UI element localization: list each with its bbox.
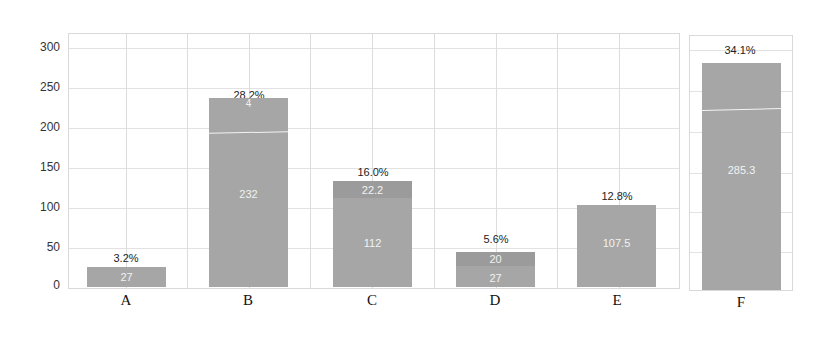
value-label-E: 107.5 <box>577 237 656 249</box>
y-tick-200: 200 <box>20 120 60 134</box>
vgrid-D <box>496 34 497 288</box>
gridline-250 <box>69 88 679 89</box>
gridline-200 <box>69 128 679 129</box>
bar-D[interactable]: 20 27 <box>456 252 535 287</box>
value-label-B: 232 <box>209 188 288 200</box>
pct-label-A: 3.2% <box>86 252 166 264</box>
pct-label-E: 12.8% <box>577 190 657 202</box>
y-tick-50: 50 <box>20 240 60 254</box>
x-label-E: E <box>597 292 637 309</box>
segment-divider-F <box>702 108 781 111</box>
value-label-C-top: 22.2 <box>333 184 412 196</box>
vgrid-sep-4 <box>557 34 558 288</box>
vgrid-sep-1 <box>187 34 188 288</box>
bar-A[interactable]: 27 <box>87 267 166 287</box>
pct-label-F: 34.1% <box>700 44 780 56</box>
x-label-C: C <box>352 292 392 309</box>
pct-label-D: 5.6% <box>456 233 536 245</box>
bar-C[interactable]: 22.2 112 <box>333 181 412 287</box>
value-label-F: 285.3 <box>702 164 781 176</box>
x-label-B: B <box>228 292 268 309</box>
vgrid-sep-3 <box>434 34 435 288</box>
gridline-300 <box>69 48 679 49</box>
value-label-D-top: 20 <box>456 253 535 265</box>
value-label-C: 112 <box>333 237 412 249</box>
segment-divider-B <box>209 131 288 133</box>
bar-E[interactable]: 107.5 <box>577 205 656 287</box>
value-label-D: 27 <box>456 272 535 284</box>
vgrid-A <box>126 34 127 288</box>
y-tick-300: 300 <box>20 40 60 54</box>
value-label-B-top: 4 <box>209 98 288 109</box>
vgrid-sep-2 <box>310 34 311 288</box>
bar-F[interactable]: 285.3 <box>702 63 781 290</box>
value-label-A: 27 <box>87 271 166 283</box>
x-label-F: F <box>721 294 761 311</box>
y-tick-250: 250 <box>20 80 60 94</box>
pct-label-C: 16.0% <box>333 166 413 178</box>
y-tick-0: 0 <box>20 278 60 292</box>
y-tick-150: 150 <box>20 160 60 174</box>
bar-B[interactable]: 4 232 <box>209 98 288 287</box>
x-label-D: D <box>475 292 515 309</box>
x-label-A: A <box>106 292 146 309</box>
y-tick-100: 100 <box>20 200 60 214</box>
